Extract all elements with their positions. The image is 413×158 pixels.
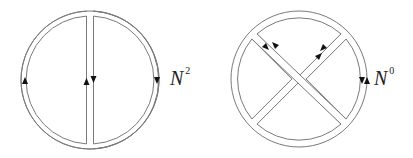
arrow-up-right-ring-outer — [364, 77, 370, 84]
nonplanar-diagram-graphic — [0, 0, 413, 158]
nonplanar-order-label: N0 — [374, 68, 394, 88]
over-band-edge-2 — [252, 39, 341, 124]
label-exponent: 0 — [389, 65, 394, 76]
arrow-diag-left-up — [272, 42, 279, 49]
over-band-edge-1 — [257, 34, 346, 119]
arrow-diag-right-down — [320, 44, 327, 51]
label-base: N — [374, 67, 387, 89]
